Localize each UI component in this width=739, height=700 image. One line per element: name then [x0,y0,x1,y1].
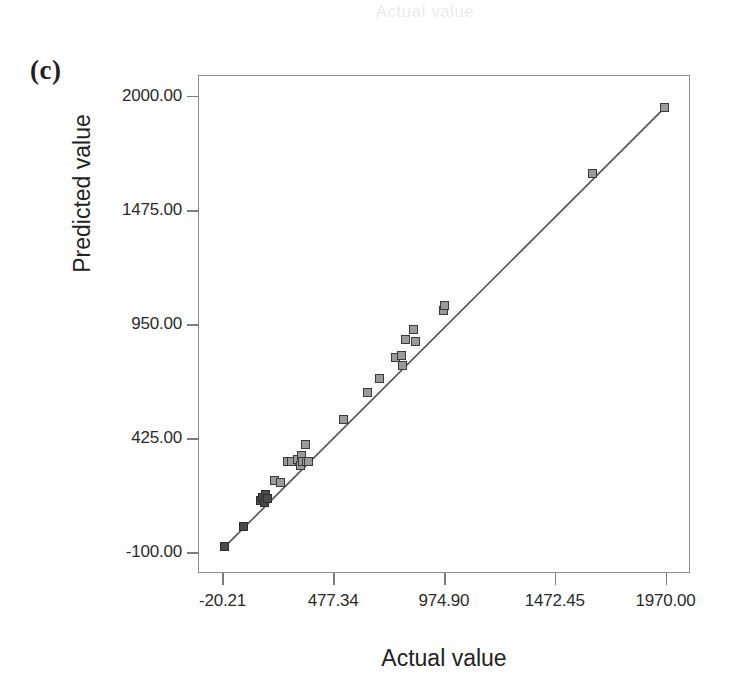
x-axis-title: Actual value [198,645,690,672]
y-axis-tick [187,552,198,554]
x-axis-tick-label: 1970.00 [635,591,695,611]
y-axis-tick-label: -100.00 [126,542,182,562]
data-point [397,351,406,360]
y-axis-tick [187,438,198,440]
data-point [411,337,420,346]
scatter-plot: -100.00425.00950.001475.002000.00-20.214… [198,75,690,573]
data-point [660,103,669,112]
x-axis-tick [444,573,446,585]
x-axis-tick [555,573,557,585]
y-axis-tick-label: 1475.00 [122,200,182,220]
x-axis-tick [222,573,224,585]
plot-data-canvas [198,75,690,573]
data-point [301,440,310,449]
data-point [409,325,418,334]
clipped-caption-above: Actual value [330,2,520,24]
y-axis-tick-label: 950.00 [131,314,182,334]
data-point [401,335,410,344]
data-point [304,457,313,466]
data-point [363,388,372,397]
data-point [276,478,285,487]
panel-label: (c) [30,55,61,86]
x-axis-tick [666,573,668,585]
y-axis-tick [187,96,198,98]
data-point [339,415,348,424]
data-point [440,301,449,310]
data-point [239,522,248,531]
y-axis-tick-label: 425.00 [131,428,182,448]
x-axis-tick-label: 974.90 [419,591,470,611]
x-axis-tick [333,573,335,585]
y-axis-tick [187,324,198,326]
y-axis-tick-label: 2000.00 [122,86,182,106]
y-axis-title: Predicted value [69,64,96,324]
x-axis-tick-label: 477.34 [308,591,359,611]
data-point [375,374,384,383]
y-axis-tick [187,210,198,212]
data-point [588,169,597,178]
fit-line [198,75,690,573]
x-axis-tick-label: -20.21 [199,591,246,611]
data-point [220,542,229,551]
data-point [398,361,407,370]
data-point [263,494,272,503]
x-axis-tick-label: 1472.45 [525,591,585,611]
